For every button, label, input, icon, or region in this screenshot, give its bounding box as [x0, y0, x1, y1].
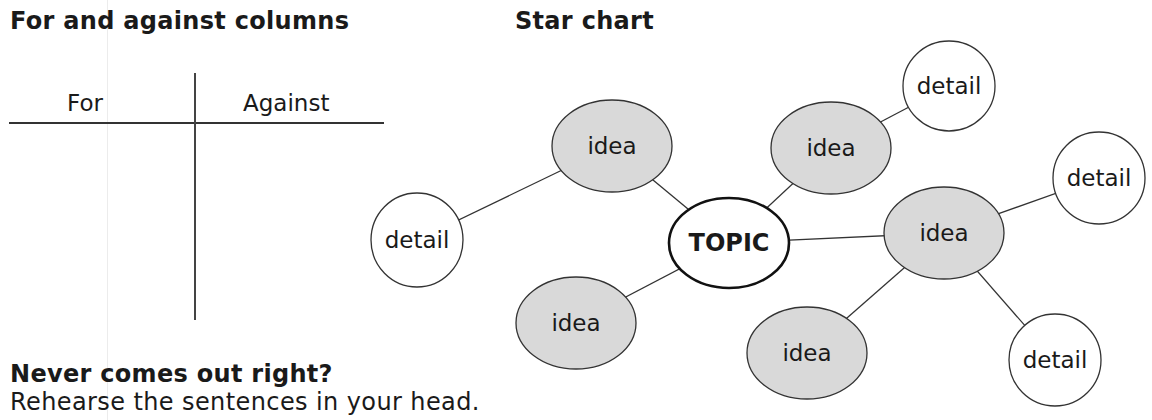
idea-label: idea [551, 310, 600, 336]
tip-heading: Never comes out right? [10, 362, 333, 386]
star-chart-diagram: TOPICideaideaideaideaideadetaildetaildet… [0, 0, 1152, 420]
idea-node: idea [747, 307, 867, 399]
topic-node: TOPIC [669, 198, 789, 288]
idea-label: idea [806, 135, 855, 161]
detail-label: detail [385, 227, 450, 253]
detail-label: detail [917, 73, 982, 99]
idea-node: idea [884, 187, 1004, 279]
detail-node: detail [371, 193, 463, 287]
idea-node: idea [552, 100, 672, 192]
idea-node: idea [771, 102, 891, 194]
idea-label: idea [587, 133, 636, 159]
idea-label: idea [782, 340, 831, 366]
nodes: TOPICideaideaideaideaideadetaildetaildet… [371, 41, 1145, 406]
detail-node: detail [1009, 314, 1101, 406]
detail-node: detail [1053, 132, 1145, 224]
tip-body: Rehearse the sentences in your head. [10, 390, 480, 414]
topic-label: TOPIC [689, 229, 770, 257]
idea-node: idea [516, 277, 636, 369]
detail-label: detail [1067, 165, 1132, 191]
idea-label: idea [919, 220, 968, 246]
detail-node: detail [903, 41, 995, 131]
detail-label: detail [1023, 347, 1088, 373]
